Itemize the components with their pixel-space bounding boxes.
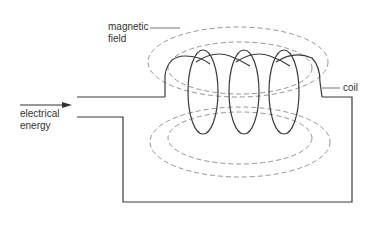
coil-label-text: coil xyxy=(343,82,358,94)
electrical-energy-label: electrical energy xyxy=(20,108,59,132)
field-line-bottom-outer xyxy=(150,107,330,177)
magnetic-field-label-line2: field xyxy=(108,33,149,45)
coil-label: coil xyxy=(343,82,358,94)
electrical-energy-label-line1: electrical xyxy=(20,108,59,120)
field-line-bottom-inner xyxy=(168,112,312,164)
field-line-top-inner xyxy=(168,42,312,94)
magnetic-field-label-line1: magnetic xyxy=(108,21,149,33)
wire-circuit-return xyxy=(77,97,352,202)
magnetic-field-label: magnetic field xyxy=(108,21,149,45)
field-line-top-outer xyxy=(148,27,328,97)
electrical-energy-label-line2: energy xyxy=(20,120,59,132)
